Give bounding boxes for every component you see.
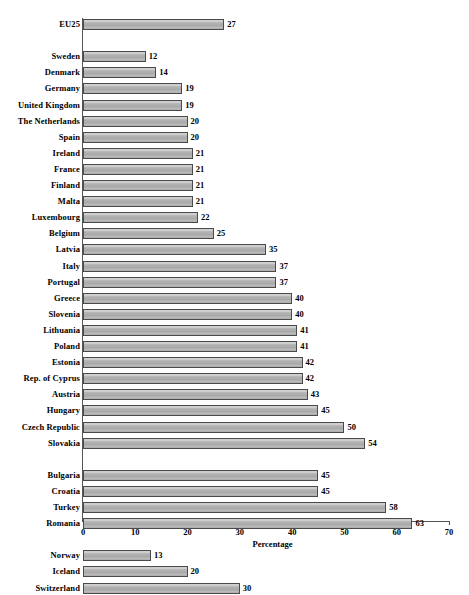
bar-row: Bulgaria45 bbox=[0, 470, 469, 482]
bar bbox=[83, 244, 266, 255]
bar bbox=[83, 83, 182, 94]
category-label: Bulgaria bbox=[0, 469, 80, 481]
bar-row: Greece40 bbox=[0, 293, 469, 305]
bar-row: Switzerland30 bbox=[0, 583, 469, 595]
bar-value-label: 43 bbox=[311, 388, 320, 400]
bar-value-label: 54 bbox=[368, 437, 377, 449]
bar-row: Belgium25 bbox=[0, 228, 469, 240]
bar-value-label: 25 bbox=[217, 227, 226, 239]
bar-value-label: 12 bbox=[149, 50, 158, 62]
bar bbox=[83, 550, 151, 561]
bar bbox=[83, 164, 193, 175]
bar-value-label: 40 bbox=[295, 292, 304, 304]
bar-row: Denmark14 bbox=[0, 67, 469, 79]
category-label: Spain bbox=[0, 131, 80, 143]
bar-row: The Netherlands20 bbox=[0, 116, 469, 128]
category-label: Switzerland bbox=[0, 582, 80, 594]
bar bbox=[83, 277, 276, 288]
bar-value-label: 30 bbox=[243, 582, 252, 594]
bar-row: Romania63 bbox=[0, 518, 469, 530]
bar-value-label: 20 bbox=[191, 565, 200, 577]
bar-value-label: 42 bbox=[306, 372, 315, 384]
bar-value-label: 22 bbox=[201, 211, 210, 223]
bar-row: France21 bbox=[0, 164, 469, 176]
category-label: The Netherlands bbox=[0, 115, 80, 127]
bar-row: Czech Republic50 bbox=[0, 422, 469, 434]
bar-row: Sweden12 bbox=[0, 51, 469, 63]
bar-row: Turkey58 bbox=[0, 502, 469, 514]
category-label: Rep. of Cyprus bbox=[0, 372, 80, 384]
bar-value-label: 50 bbox=[347, 421, 356, 433]
bar-row: United Kingdom19 bbox=[0, 100, 469, 112]
category-label: Hungary bbox=[0, 404, 80, 416]
bar-row: Hungary45 bbox=[0, 405, 469, 417]
bar-value-label: 14 bbox=[159, 66, 168, 78]
bar-row: Spain20 bbox=[0, 132, 469, 144]
bar-row: Italy37 bbox=[0, 261, 469, 273]
bar-value-label: 35 bbox=[269, 243, 278, 255]
bar bbox=[83, 196, 193, 207]
bar-value-label: 21 bbox=[196, 147, 205, 159]
bar bbox=[83, 470, 318, 481]
bar bbox=[83, 67, 156, 78]
bar-value-label: 21 bbox=[196, 163, 205, 175]
bar bbox=[83, 228, 214, 239]
bar-value-label: 40 bbox=[295, 308, 304, 320]
bar bbox=[83, 502, 386, 513]
bar bbox=[83, 373, 303, 384]
bar bbox=[83, 116, 188, 127]
bar-row: Latvia35 bbox=[0, 244, 469, 256]
bar bbox=[83, 583, 240, 594]
bar-value-label: 19 bbox=[185, 82, 194, 94]
category-label: Romania bbox=[0, 517, 80, 529]
category-label: EU25 bbox=[0, 18, 80, 30]
bar-row: Malta21 bbox=[0, 196, 469, 208]
category-label: Austria bbox=[0, 388, 80, 400]
bar-row: Rep. of Cyprus42 bbox=[0, 373, 469, 385]
category-label: Finland bbox=[0, 179, 80, 191]
bar bbox=[83, 132, 188, 143]
bar bbox=[83, 19, 224, 30]
category-label: Germany bbox=[0, 82, 80, 94]
bar bbox=[83, 309, 292, 320]
bar-row: Luxembourg22 bbox=[0, 212, 469, 224]
bar-row: Finland21 bbox=[0, 180, 469, 192]
bar-row: Croatia45 bbox=[0, 486, 469, 498]
bar-value-label: 21 bbox=[196, 179, 205, 191]
bar bbox=[83, 566, 188, 577]
bar-row: Iceland20 bbox=[0, 566, 469, 578]
category-label: Croatia bbox=[0, 485, 80, 497]
bar-value-label: 19 bbox=[185, 99, 194, 111]
bar bbox=[83, 389, 308, 400]
category-label: Lithuania bbox=[0, 324, 80, 336]
bar-value-label: 45 bbox=[321, 485, 330, 497]
bar-row: Germany19 bbox=[0, 83, 469, 95]
category-label: Norway bbox=[0, 549, 80, 561]
bar-value-label: 42 bbox=[306, 356, 315, 368]
bar-row: Slovakia54 bbox=[0, 438, 469, 450]
bar-value-label: 41 bbox=[300, 324, 309, 336]
bar-value-label: 37 bbox=[279, 260, 288, 272]
bar bbox=[83, 422, 344, 433]
category-label: Portugal bbox=[0, 276, 80, 288]
category-label: Turkey bbox=[0, 501, 80, 513]
bar-value-label: 63 bbox=[415, 517, 424, 529]
bar bbox=[83, 293, 292, 304]
category-label: Sweden bbox=[0, 50, 80, 62]
bar-row: Poland41 bbox=[0, 341, 469, 353]
bar-value-label: 13 bbox=[154, 549, 163, 561]
bar-value-label: 58 bbox=[389, 501, 398, 513]
bar-value-label: 45 bbox=[321, 404, 330, 416]
bar-value-label: 20 bbox=[191, 115, 200, 127]
category-label: Luxembourg bbox=[0, 211, 80, 223]
bar bbox=[83, 261, 276, 272]
bar bbox=[83, 341, 297, 352]
category-label: Denmark bbox=[0, 66, 80, 78]
category-label: Belgium bbox=[0, 227, 80, 239]
category-label: Malta bbox=[0, 195, 80, 207]
x-axis-title: Percentage bbox=[0, 539, 469, 549]
bar-value-label: 27 bbox=[227, 18, 236, 30]
category-label: France bbox=[0, 163, 80, 175]
bar-row: EU2527 bbox=[0, 19, 469, 31]
